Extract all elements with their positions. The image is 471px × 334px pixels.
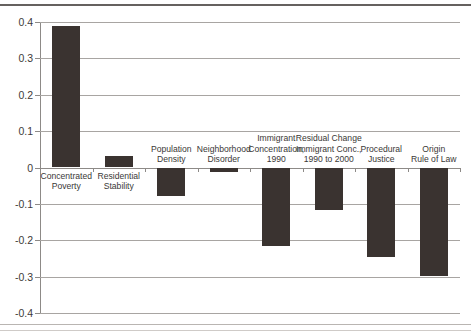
y-axis-tick-label: -0.1 <box>0 198 33 210</box>
scanned-page-bottom-edge-secondary <box>0 330 471 331</box>
y-axis-tick-label: -0.4 <box>0 307 33 319</box>
bar <box>105 156 133 167</box>
category-axis-tick <box>460 168 461 172</box>
y-axis-tick-label: -0.2 <box>0 234 33 246</box>
y-axis-tick-label: 0.3 <box>0 52 33 64</box>
category-label-line: Residual Change <box>293 133 365 144</box>
bar <box>210 168 238 173</box>
gridline <box>40 313 460 314</box>
category-axis-tick <box>198 168 199 172</box>
category-label-line: Rule of Law <box>398 154 470 165</box>
category-axis-tick <box>355 168 356 172</box>
category-label-line: Residential <box>83 171 155 182</box>
y-axis-tick-label: 0.2 <box>0 89 33 101</box>
bar-chart: 0.40.30.20.10-0.1-0.2-0.3-0.4 Concentrat… <box>0 0 471 334</box>
bar <box>367 168 395 257</box>
y-axis-tick-label: 0 <box>0 162 33 174</box>
category-axis-tick <box>408 168 409 172</box>
bar <box>52 26 80 167</box>
bar <box>157 168 185 196</box>
bar <box>262 168 290 246</box>
category-label: OriginRule of Law <box>398 144 470 165</box>
y-axis-tick-label: -0.3 <box>0 271 33 283</box>
bar <box>315 168 343 211</box>
y-axis-tick-label: 0.4 <box>0 16 33 28</box>
category-axis-tick <box>303 168 304 172</box>
category-label: ResidentialStability <box>83 171 155 192</box>
y-axis-tick <box>35 313 40 314</box>
bar <box>420 168 448 276</box>
category-label-line: Origin <box>398 144 470 155</box>
category-label-line: Stability <box>83 181 155 192</box>
y-axis-tick-label: 0.1 <box>0 125 33 137</box>
category-axis-tick <box>250 168 251 172</box>
scanned-page-bottom-edge <box>0 324 471 325</box>
